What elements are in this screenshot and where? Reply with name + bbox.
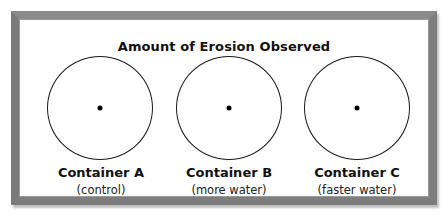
diagram-title: Amount of Erosion Observed [19,39,429,54]
container-b-label: Container B [159,165,299,180]
circle-c [304,56,410,160]
diagram-frame: Amount of Erosion Observed Container A (… [11,11,437,205]
container-c-note: (faster water) [287,183,427,197]
container-c-label: Container C [287,165,427,180]
container-b-note: (more water) [159,183,299,197]
center-dot-icon [98,106,103,111]
circle-a [47,56,153,160]
circle-b [176,56,282,160]
center-dot-icon [227,106,232,111]
container-a-label: Container A [31,165,171,180]
center-dot-icon [355,106,360,111]
container-a-note: (control) [31,183,171,197]
